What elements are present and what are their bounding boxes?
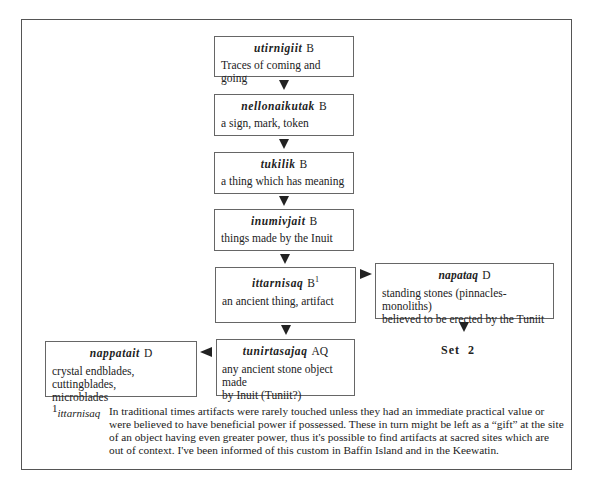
arrow-down-icon bbox=[281, 325, 291, 335]
box-heading: ittarnisaqB1 bbox=[216, 273, 355, 290]
arrow-down-icon bbox=[279, 139, 289, 149]
arrow-down-icon bbox=[459, 322, 469, 332]
footnote-ref: 1 bbox=[315, 275, 319, 284]
box-heading: nappataitD bbox=[46, 347, 196, 360]
term: napataq bbox=[438, 269, 478, 281]
term: ittarnisaq bbox=[252, 277, 303, 289]
box-heading: inumivjaitB bbox=[215, 215, 353, 228]
figure-caption-clipped bbox=[26, 486, 29, 493]
concept-box-ittarnisaq: ittarnisaqB1 an ancient thing, artifact bbox=[215, 267, 356, 323]
arrow-left-icon bbox=[200, 347, 212, 357]
arrow-down-icon bbox=[279, 80, 289, 90]
gloss: crystal endblades, cuttingblades, microb… bbox=[46, 360, 196, 404]
box-heading: napataqD bbox=[376, 269, 553, 282]
term: nellonaikutak bbox=[241, 100, 315, 112]
term: tunirtasajaq bbox=[243, 345, 308, 357]
box-heading: utirnigiitB bbox=[215, 42, 353, 55]
category-code: B bbox=[309, 215, 317, 227]
concept-box-inumivjait: inumivjaitB things made by the Inuit bbox=[214, 209, 354, 251]
arrow-right-icon bbox=[360, 269, 372, 279]
gloss: a sign, mark, token bbox=[215, 113, 353, 130]
box-heading: nellonaikutakB bbox=[215, 100, 353, 113]
box-heading: tunirtasajaqAQ bbox=[217, 345, 354, 358]
box-heading: tukilikB bbox=[215, 158, 353, 171]
concept-box-utirnigiit: utirnigiitB Traces of coming and going bbox=[214, 36, 354, 77]
gloss: standing stones (pinnacles-monoliths) be… bbox=[376, 282, 553, 326]
set-label: Set 2 bbox=[441, 343, 475, 358]
concept-box-tukilik: tukilikB a thing which has meaning bbox=[214, 152, 354, 194]
gloss: any ancient stone object made by Inuit (… bbox=[217, 358, 354, 402]
category-code: D bbox=[482, 269, 490, 281]
concept-box-nellonaikutak: nellonaikutakB a sign, mark, token bbox=[214, 94, 354, 136]
category-code: B bbox=[306, 42, 314, 54]
arrow-down-icon bbox=[279, 196, 289, 206]
gloss: an ancient thing, artifact bbox=[216, 290, 355, 308]
term: tukilik bbox=[261, 158, 296, 170]
term: utirnigiit bbox=[254, 42, 302, 54]
category-code: AQ bbox=[312, 345, 329, 357]
category-code: B bbox=[300, 158, 308, 170]
footnote-number: 1 bbox=[52, 402, 58, 414]
category-code: B bbox=[319, 100, 327, 112]
concept-box-napataq: napataqD standing stones (pinnacles-mono… bbox=[375, 263, 554, 319]
term: nappatait bbox=[90, 347, 140, 359]
category-code: D bbox=[144, 347, 152, 359]
footnote-marker: 1ittarnisaq bbox=[52, 405, 100, 417]
concept-box-tunirtasajaq: tunirtasajaqAQ any ancient stone object … bbox=[216, 339, 355, 396]
category-code: B1 bbox=[307, 277, 319, 289]
gloss: things made by the Inuit bbox=[215, 228, 353, 245]
footnote-term: ittarnisaq bbox=[58, 407, 101, 419]
gloss: a thing which has meaning bbox=[215, 171, 353, 188]
concept-box-nappatait: nappataitD crystal endblades, cuttingbla… bbox=[45, 341, 197, 397]
footnote-text: In traditional times artifacts were rare… bbox=[109, 405, 564, 457]
term: inumivjait bbox=[251, 215, 306, 227]
arrow-down-icon bbox=[280, 254, 290, 264]
